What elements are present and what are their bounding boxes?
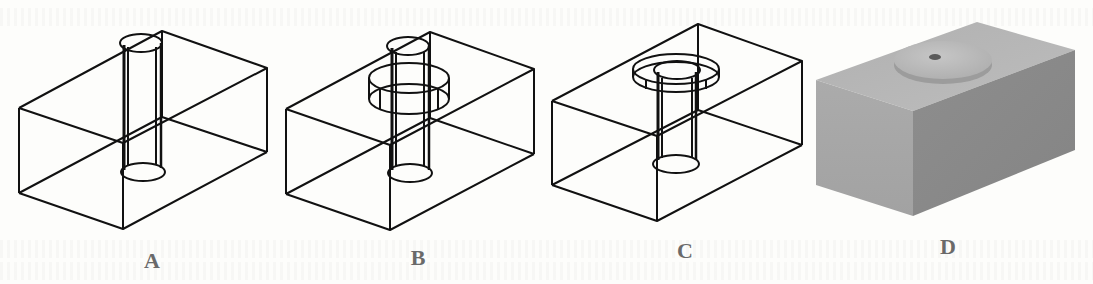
figure-label-d: D [940,234,956,260]
figure-a-wireframe [19,31,267,229]
figure-canvas [0,0,1093,284]
figure-d-shaded [816,22,1075,216]
figure-label-c: C [677,238,693,264]
figure-b-wireframe [286,32,534,230]
figure-c-wireframe [552,24,802,221]
figure-label-b: B [411,245,426,271]
figure-label-a: A [144,248,160,274]
